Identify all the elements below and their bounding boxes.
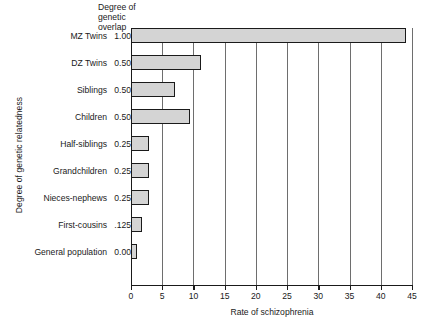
x-tick-label-15: 15: [213, 291, 237, 301]
x-tick-label-25: 25: [275, 291, 299, 301]
overlap-header-line-1: Degree of: [98, 2, 138, 12]
bar: [131, 28, 406, 43]
x-tick-label-35: 35: [338, 291, 362, 301]
chart-container: Degree of genetic relatedness Degree of …: [0, 0, 429, 327]
bar: [131, 136, 149, 151]
genetic-overlap-value: 0.25: [104, 190, 131, 206]
genetic-overlap-value: 0.00: [104, 244, 131, 260]
category-label: Children: [4, 109, 107, 125]
x-tick-label-30: 30: [306, 291, 330, 301]
bar: [131, 55, 201, 70]
genetic-overlap-value: 1.00: [104, 28, 131, 44]
x-tick-0: [131, 285, 132, 290]
genetic-overlap-value: 0.50: [104, 109, 131, 125]
x-axis-line: [131, 285, 413, 286]
bar-row: Grandchildren0.25: [0, 163, 429, 190]
x-tick-15: [225, 285, 226, 290]
category-label: Grandchildren: [4, 163, 107, 179]
bar-row: MZ Twins1.00: [0, 28, 429, 55]
x-tick-label-45: 45: [400, 291, 424, 301]
genetic-overlap-value: .125: [104, 217, 131, 233]
x-tick-label-10: 10: [181, 291, 205, 301]
category-label: Half-siblings: [4, 136, 107, 152]
bar: [131, 190, 149, 205]
bar: [131, 163, 149, 178]
x-tick-5: [162, 285, 163, 290]
x-tick-35: [350, 285, 351, 290]
x-tick-label-0: 0: [119, 291, 143, 301]
x-tick-label-40: 40: [369, 291, 393, 301]
bar-row: Half-siblings0.25: [0, 136, 429, 163]
x-tick-40: [381, 285, 382, 290]
overlap-header-line-2: genetic: [98, 12, 138, 22]
x-tick-label-20: 20: [244, 291, 268, 301]
genetic-overlap-value: 0.25: [104, 136, 131, 152]
bar-row: DZ Twins0.50: [0, 55, 429, 82]
bar: [131, 244, 137, 259]
bar-row: Nieces-nephews0.25: [0, 190, 429, 217]
genetic-overlap-value: 0.50: [104, 55, 131, 71]
bar-row: General population0.00: [0, 244, 429, 271]
category-label: Nieces-nephews: [4, 190, 107, 206]
category-label: DZ Twins: [4, 55, 107, 71]
x-tick-20: [256, 285, 257, 290]
x-axis-title: Rate of schizophrenia: [131, 307, 413, 317]
genetic-overlap-value: 0.50: [104, 82, 131, 98]
category-label: First-cousins: [4, 217, 107, 233]
category-label: Siblings: [4, 82, 107, 98]
x-tick-10: [193, 285, 194, 290]
x-tick-45: [412, 285, 413, 290]
genetic-overlap-value: 0.25: [104, 163, 131, 179]
x-tick-30: [318, 285, 319, 290]
x-tick-label-5: 5: [150, 291, 174, 301]
bar-row: Siblings0.50: [0, 82, 429, 109]
x-tick-25: [287, 285, 288, 290]
category-label: MZ Twins: [4, 28, 107, 44]
bar: [131, 217, 142, 232]
bar-row: Children0.50: [0, 109, 429, 136]
bar-rows: MZ Twins1.00DZ Twins0.50Siblings0.50Chil…: [0, 28, 429, 285]
bar: [131, 82, 175, 97]
bar: [131, 109, 190, 124]
bar-row: First-cousins.125: [0, 217, 429, 244]
category-label: General population: [4, 244, 107, 260]
